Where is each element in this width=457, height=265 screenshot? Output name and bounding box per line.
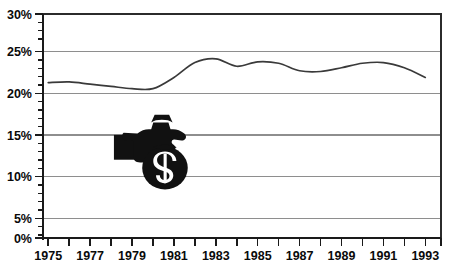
x-tick-label-1977: 1977 bbox=[76, 249, 104, 263]
x-tick-label-1991: 1991 bbox=[369, 249, 397, 263]
x-tick-label-1979: 1979 bbox=[118, 249, 146, 263]
chart-background bbox=[0, 0, 457, 265]
x-tick-label-1987: 1987 bbox=[286, 249, 314, 263]
x-tick-label-1993: 1993 bbox=[411, 249, 439, 263]
line-chart: 30% 25% 20% 15% 10% 5% 0% bbox=[0, 0, 457, 265]
y-tick-label-30: 30% bbox=[7, 8, 32, 22]
x-tick-label-1981: 1981 bbox=[160, 249, 188, 263]
x-tick-label-1975: 1975 bbox=[34, 249, 62, 263]
y-tick-label-20: 20% bbox=[7, 87, 32, 101]
y-tick-label-15: 15% bbox=[7, 129, 32, 143]
x-tick-label-1989: 1989 bbox=[328, 249, 356, 263]
y-tick-label-5: 5% bbox=[14, 212, 32, 226]
chart-container: 30% 25% 20% 15% 10% 5% 0% bbox=[0, 0, 457, 265]
y-tick-label-25: 25% bbox=[7, 45, 32, 59]
y-tick-label-10: 10% bbox=[7, 170, 32, 184]
y-tick-label-0: 0% bbox=[14, 232, 32, 246]
x-tick-label-1983: 1983 bbox=[202, 249, 230, 263]
x-tick-label-1985: 1985 bbox=[244, 249, 272, 263]
